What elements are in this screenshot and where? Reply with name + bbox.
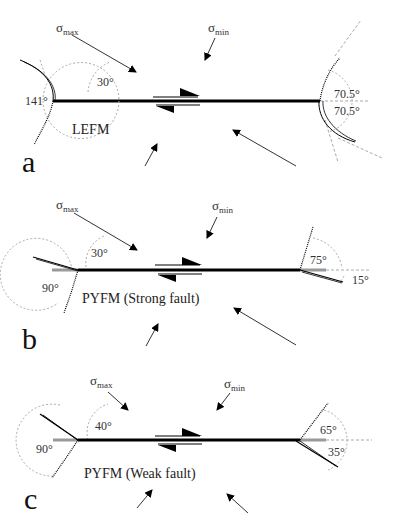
- right-tip-angle-upper-label: 65°: [320, 423, 337, 437]
- left-branch-lower: [64, 270, 78, 313]
- sigma-max-label: σmax: [90, 373, 113, 390]
- left-tip-arc: [0, 238, 72, 310]
- sigma-max-arrow-out: [227, 494, 248, 513]
- right-tip-angle-upper-label: 75°: [310, 253, 327, 267]
- sigma-min-label: σmin: [224, 376, 246, 393]
- sigma-max-arrow-in: [108, 392, 128, 410]
- left-branch-lower: [52, 440, 78, 478]
- panel-c: σmax σmin 40° 90° 65° 35° PYFM (Weak fau…: [16, 373, 372, 515]
- left-tip-angle-label: 90°: [36, 442, 53, 456]
- panel-letter: b: [22, 322, 37, 355]
- model-label: PYFM (Strong fault): [82, 291, 200, 307]
- sigma-max-arrow-in: [74, 213, 137, 250]
- sigma-max-arrow-out: [233, 130, 296, 166]
- stress-angle-label: 30°: [91, 246, 108, 260]
- stress-angle-label: 40°: [95, 419, 112, 433]
- right-branch-lower: [300, 270, 343, 282]
- sigma-min-label: σmin: [208, 20, 230, 37]
- sigma-min-arrow-out: [145, 144, 157, 166]
- right-tip-angle-upper-label: 70.5°: [334, 87, 360, 101]
- left-tip-angle-label: 141°: [25, 94, 48, 108]
- sigma-min-label: σmin: [212, 198, 234, 215]
- left-tip-angle-label: 90°: [42, 281, 59, 295]
- panel-a: σmax σmin 30° 141° 70: [20, 20, 382, 178]
- sigma-min-arrow-in: [205, 38, 215, 60]
- sigma-min-arrow-out: [146, 324, 158, 346]
- sigma-max-label: σmax: [56, 197, 79, 214]
- model-label: LEFM: [72, 122, 110, 137]
- sigma-max-arrow-in: [72, 35, 136, 72]
- sigma-min-arrow-out: [137, 490, 152, 508]
- right-tip-angle-lower-label: 15°: [352, 273, 369, 287]
- model-label: PYFM (Weak fault): [84, 466, 196, 482]
- right-tip-angle-lower-label: 70.5°: [334, 104, 360, 118]
- sigma-min-arrow-in: [217, 393, 230, 410]
- right-tip-angle-lower-label: 35°: [328, 445, 345, 459]
- sigma-max-label: σmax: [56, 20, 79, 37]
- left-branch-upper: [33, 257, 78, 270]
- panel-letter: c: [24, 482, 37, 515]
- sigma-min-arrow-in: [207, 217, 217, 238]
- sigma-max-arrow-out: [234, 308, 296, 345]
- fault-diagram: σmax σmin 30° 141° 70: [0, 0, 401, 526]
- panel-letter: a: [22, 145, 35, 178]
- panel-b: σmax σmin 30° 90° 75° 15° PYFM (Strong f…: [0, 197, 370, 355]
- stress-angle-label: 30°: [97, 75, 114, 89]
